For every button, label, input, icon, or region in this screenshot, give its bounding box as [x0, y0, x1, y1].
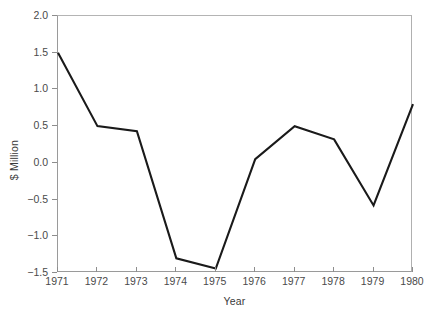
x-tick-label: 1978: [313, 276, 353, 287]
x-tick-label: 1979: [353, 276, 393, 287]
y-tick-label: 1.0: [4, 83, 48, 94]
data-series-line: [58, 53, 413, 269]
y-tick: −1.0: [0, 235, 57, 236]
y-tick: 1.5: [0, 52, 57, 53]
line-chart-figure: $ Million 2.01.51.00.50.0−0.5−1.0−1.5 19…: [0, 0, 445, 320]
y-tick: 1.0: [0, 88, 57, 89]
y-tick-label: 0.5: [4, 120, 48, 131]
y-tick-label: −1.0: [4, 230, 48, 241]
x-tick-mark: [175, 267, 176, 272]
x-tick-label: 1976: [234, 276, 274, 287]
x-tick-mark: [412, 267, 413, 272]
x-tick-label: 1971: [37, 276, 77, 287]
x-tick-mark: [333, 267, 334, 272]
y-tick-label: 2.0: [4, 10, 48, 21]
x-tick-label: 1972: [76, 276, 116, 287]
y-tick-label: 1.5: [4, 47, 48, 58]
x-tick-label: 1980: [392, 276, 432, 287]
y-tick-mark: [52, 272, 57, 273]
x-tick-mark: [136, 267, 137, 272]
y-tick: −0.5: [0, 199, 57, 200]
x-tick-label: 1974: [155, 276, 195, 287]
x-tick-mark: [373, 267, 374, 272]
x-tick-mark: [57, 267, 58, 272]
y-tick: 0.0: [0, 162, 57, 163]
y-tick-label: 0.0: [4, 157, 48, 168]
x-tick-label: 1975: [195, 276, 235, 287]
series-svg: [58, 16, 413, 273]
x-axis-title: Year: [57, 295, 412, 307]
plot-area: [57, 15, 412, 272]
y-tick: 2.0: [0, 15, 57, 16]
x-tick-mark: [294, 267, 295, 272]
x-tick-mark: [215, 267, 216, 272]
x-tick-label: 1973: [116, 276, 156, 287]
y-tick: −1.5: [0, 272, 57, 273]
y-tick: 0.5: [0, 125, 57, 126]
x-tick-mark: [254, 267, 255, 272]
x-tick-label: 1977: [274, 276, 314, 287]
x-tick-mark: [96, 267, 97, 272]
y-tick-label: −0.5: [4, 194, 48, 205]
